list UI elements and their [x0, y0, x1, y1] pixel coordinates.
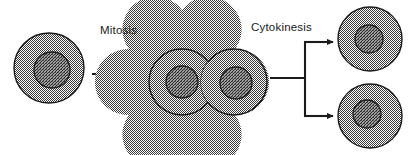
daughter-cell-top-nucleus — [355, 25, 383, 53]
mitosis-label: Mitosis — [100, 24, 137, 36]
dividing-cell-nucleus-right — [220, 67, 252, 99]
cytokinesis-arrow-group — [270, 42, 333, 116]
figure-canvas: Mitosis Cytokinesis — [0, 0, 414, 155]
daughter-cell-bottom-nucleus — [353, 100, 381, 128]
parent-cell — [14, 33, 84, 103]
cytokinesis-label: Cytokinesis — [251, 21, 312, 33]
parent-cell-nucleus — [34, 52, 70, 88]
daughter-cell-top — [338, 7, 402, 71]
cell-division-diagram: Mitosis Cytokinesis — [0, 0, 414, 155]
dividing-cell-nucleus-left — [166, 66, 198, 98]
daughter-cell-bottom — [338, 84, 402, 148]
